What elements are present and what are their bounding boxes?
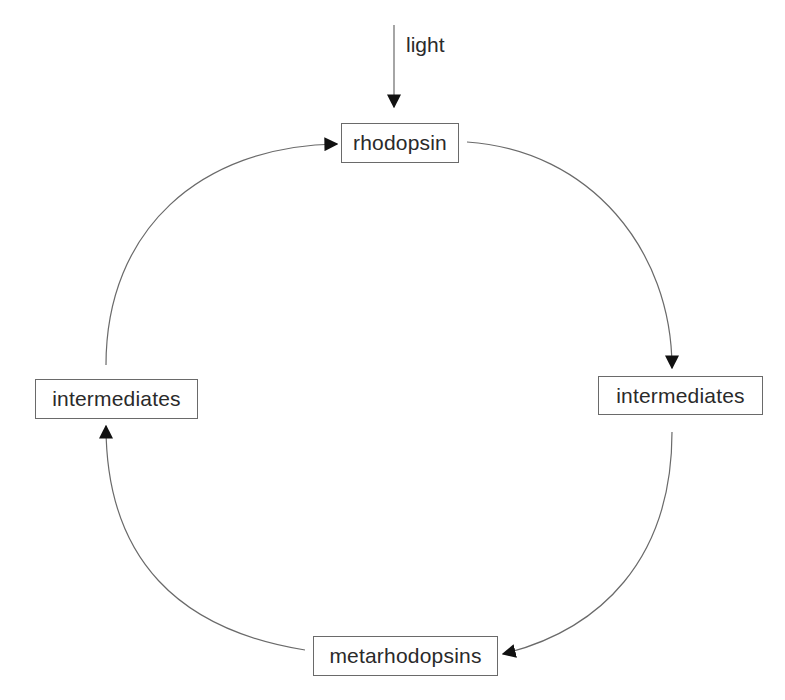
node-intermediates-left: intermediates	[35, 379, 198, 419]
arrow-intermediates-left-to-rhodopsin	[106, 144, 337, 365]
cycle-arrows	[0, 0, 785, 700]
node-rhodopsin: rhodopsin	[341, 123, 459, 163]
light-label: light	[406, 33, 445, 57]
node-metarhodopsins: metarhodopsins	[313, 636, 498, 676]
node-intermediates-right: intermediates	[598, 376, 763, 415]
arrow-rhodopsin-to-intermediates-right	[467, 142, 672, 368]
arrow-intermediates-right-to-metarhodopsins	[503, 432, 672, 654]
arrow-metarhodopsins-to-intermediates-left	[106, 426, 305, 650]
